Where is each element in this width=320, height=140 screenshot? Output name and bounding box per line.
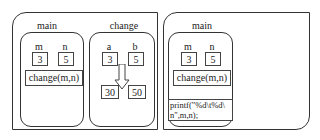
right-var-label-n: n [205, 41, 219, 52]
printf-line-2: n",m,n); [170, 110, 231, 120]
right-var-box-m: 3 [181, 52, 197, 66]
var-label-m: m [32, 41, 46, 52]
right-var-box-n: 5 [205, 52, 221, 66]
var-label-n: n [58, 41, 72, 52]
var-box-n: 5 [58, 52, 74, 66]
var-box-b: 5 [128, 52, 144, 66]
new-value-b: 50 [128, 85, 146, 99]
right-var-label-m: m [181, 41, 195, 52]
change-title: change [104, 20, 144, 31]
printf-box: printf("%d\t%d\ n",m,n); [168, 99, 233, 121]
call-box: change(m,n) [25, 70, 83, 86]
var-box-m: 3 [32, 52, 48, 66]
right-call-box: change(m,n) [173, 70, 231, 86]
new-value-a: 30 [101, 85, 119, 99]
var-label-a: a [102, 41, 116, 52]
printf-line-1: printf("%d\t%d\ [170, 100, 231, 110]
left-main-title: main [30, 20, 64, 31]
var-label-b: b [128, 41, 142, 52]
right-main-title: main [185, 20, 219, 31]
